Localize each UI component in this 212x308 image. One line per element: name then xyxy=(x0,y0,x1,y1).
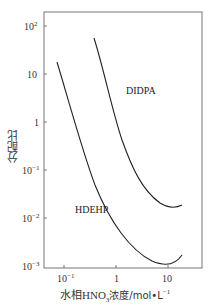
x-axis-label: 水相HNO3浓度/mol•L−1 xyxy=(60,286,170,304)
y-axis-label: 分配比 xyxy=(6,130,22,163)
ytick-label-1: 1 xyxy=(34,117,39,128)
series-label-hdehp: HDEHP xyxy=(75,204,109,215)
ytick-label-10: 10 xyxy=(27,69,37,80)
ytick-label-0.001: 10−3 xyxy=(22,260,40,272)
series-label-didpa: DIDPA xyxy=(126,85,156,96)
ytick-label-100: 102 xyxy=(24,20,38,32)
series-hdehp-line xyxy=(57,62,182,264)
xtick-label-1: 1 xyxy=(114,273,119,284)
ytick-label-0.1: 10−1 xyxy=(22,164,40,176)
x-axis-ticks xyxy=(64,265,168,268)
plot-frame xyxy=(44,12,202,268)
xtick-label-10: 10 xyxy=(162,273,172,284)
xtick-label-0.1: 10−1 xyxy=(57,272,75,284)
ytick-label-0.01: 10−2 xyxy=(22,212,40,224)
series-didpa-line xyxy=(94,38,182,207)
chart-canvas: 102 10 1 10−1 10−2 10−3 10−1 1 10 DIDPA … xyxy=(0,0,212,308)
